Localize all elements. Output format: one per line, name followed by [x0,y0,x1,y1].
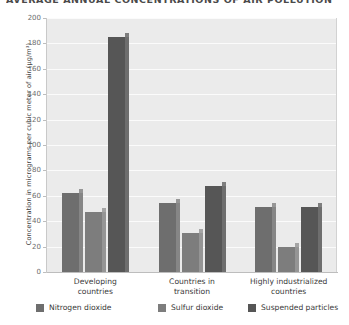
gridline [47,120,336,121]
x-axis-label: Highly industrializedcountries [240,277,337,296]
y-tick-label: 180 [28,39,41,47]
gridline [47,94,336,95]
y-tick-mark [43,272,46,273]
chart-container: AVERAGE ANNUAL CONCENTRATIONS OF AIR POL… [0,0,349,325]
bar-top [79,189,83,193]
y-tick-label: 0 [37,268,41,276]
bar-face [159,203,176,272]
y-tick-mark [43,69,46,70]
bar-face [108,37,125,272]
y-tick-label: 160 [28,65,41,73]
x-axis-label-line: countries [240,287,337,297]
bar-top [222,182,226,186]
legend-swatch [248,304,256,312]
gridline [47,170,336,171]
y-tick-label: 20 [32,243,41,251]
y-tick-mark [43,43,46,44]
y-tick-label: 40 [32,217,41,225]
bar-side [199,233,203,272]
bar-top [176,199,180,203]
bar-face [301,207,318,272]
bar-side [176,203,180,272]
bar-top [199,229,203,233]
y-tick-label: 60 [32,192,41,200]
bar-face [85,212,102,272]
y-tick-mark [43,221,46,222]
legend-label: Nitrogen dioxide [49,303,112,312]
bar [85,212,102,272]
x-axis-line [47,272,338,273]
x-axis-label: Countries intransition [144,277,241,296]
bar [182,233,199,272]
legend-swatch [158,304,166,312]
bar-face [255,207,272,272]
bar-side [79,193,83,272]
bar-top [295,243,299,247]
legend-label: Sulfur dioxide [171,303,223,312]
bar [108,37,125,272]
legend-label: Suspended particles [261,303,338,312]
x-axis-label-line: countries [47,287,144,297]
y-tick-mark [43,170,46,171]
legend-item[interactable]: Suspended particles [248,303,338,312]
legend-item[interactable]: Nitrogen dioxide [36,303,112,312]
y-tick-mark [43,247,46,248]
bar-top [318,203,322,207]
chart-title: AVERAGE ANNUAL CONCENTRATIONS OF AIR POL… [6,0,349,5]
x-axis-label-line: Developing [47,277,144,287]
chart-legend: Nitrogen dioxideSulfur dioxideSuspended … [0,303,349,317]
y-tick-mark [43,196,46,197]
bar-side [125,37,129,272]
bar [205,186,222,272]
gridline [47,43,336,44]
gridline [47,18,336,19]
bar-face [278,247,295,272]
legend-swatch [36,304,44,312]
y-tick-mark [43,145,46,146]
bar-face [182,233,199,272]
bar-top [125,33,129,37]
gridline [47,145,336,146]
y-tick-mark [43,94,46,95]
bar-side [295,247,299,272]
bar-top [272,203,276,207]
plot-area [47,18,337,272]
y-tick-label: 140 [28,90,41,98]
y-tick-label: 200 [28,14,41,22]
bar-side [102,212,106,272]
bar-face [205,186,222,272]
bar [278,247,295,272]
bar [159,203,176,272]
bar-side [318,207,322,272]
bar [255,207,272,272]
gridline [47,69,336,70]
x-axis-label-line: Highly industrialized [240,277,337,287]
legend-item[interactable]: Sulfur dioxide [158,303,223,312]
y-tick-mark [43,18,46,19]
bar-top [102,208,106,212]
bar-side [222,186,226,272]
bar [62,193,79,272]
x-axis-label-line: transition [144,287,241,297]
bar-side [272,207,276,272]
y-axis-line [46,18,47,273]
bar-face [62,193,79,272]
y-tick-label: 100 [28,141,41,149]
y-tick-label: 120 [28,116,41,124]
bar [301,207,318,272]
x-axis-label-line: Countries in [144,277,241,287]
y-tick-mark [43,120,46,121]
y-tick-label: 80 [32,166,41,174]
gridline [47,196,336,197]
x-axis-label: Developingcountries [47,277,144,296]
